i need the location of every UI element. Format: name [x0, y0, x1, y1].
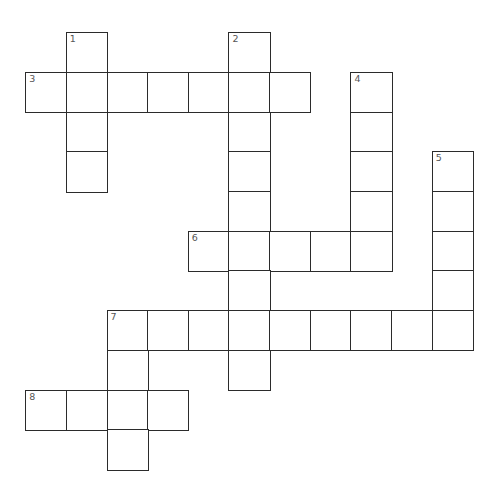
crossword-cell[interactable]	[188, 310, 230, 351]
crossword-grid: 12345678	[0, 0, 501, 487]
crossword-cell[interactable]	[310, 231, 352, 272]
clue-number: 8	[29, 392, 35, 402]
crossword-cell[interactable]	[66, 151, 108, 192]
crossword-cell[interactable]	[350, 310, 392, 351]
crossword-cell[interactable]	[350, 231, 392, 272]
crossword-cell[interactable]	[228, 231, 270, 272]
crossword-cell[interactable]	[147, 310, 189, 351]
crossword-cell[interactable]	[432, 231, 474, 272]
crossword-cell[interactable]	[107, 429, 149, 470]
crossword-cell[interactable]	[432, 191, 474, 232]
crossword-cell[interactable]: 6	[188, 231, 230, 272]
crossword-cell[interactable]: 3	[25, 72, 67, 113]
crossword-cell[interactable]	[269, 72, 311, 113]
crossword-cell[interactable]	[228, 310, 270, 351]
clue-number: 6	[192, 233, 198, 243]
crossword-cell[interactable]	[269, 231, 311, 272]
crossword-cell[interactable]	[107, 390, 149, 431]
crossword-cell[interactable]	[66, 390, 108, 431]
crossword-cell[interactable]	[66, 72, 108, 113]
crossword-cell[interactable]	[147, 72, 189, 113]
clue-number: 7	[111, 312, 117, 322]
crossword-cell[interactable]	[107, 72, 149, 113]
clue-number: 3	[29, 74, 35, 84]
crossword-cell[interactable]	[228, 191, 270, 232]
crossword-cell[interactable]	[350, 112, 392, 153]
crossword-cell[interactable]	[432, 270, 474, 311]
crossword-cell[interactable]	[350, 151, 392, 192]
crossword-cell[interactable]	[188, 72, 230, 113]
crossword-cell[interactable]	[228, 270, 270, 311]
crossword-cell[interactable]	[391, 310, 433, 351]
crossword-cell[interactable]	[350, 191, 392, 232]
clue-number: 5	[436, 153, 442, 163]
crossword-cell[interactable]: 7	[107, 310, 149, 351]
crossword-cell[interactable]	[269, 310, 311, 351]
crossword-cell[interactable]	[107, 350, 149, 391]
clue-number: 1	[70, 34, 76, 44]
crossword-cell[interactable]: 2	[228, 32, 270, 73]
crossword-cell[interactable]	[228, 112, 270, 153]
clue-number: 2	[232, 34, 238, 44]
crossword-cell[interactable]	[147, 390, 189, 431]
crossword-cell[interactable]: 5	[432, 151, 474, 192]
crossword-cell[interactable]: 8	[25, 390, 67, 431]
crossword-cell[interactable]	[310, 310, 352, 351]
crossword-cell[interactable]	[66, 112, 108, 153]
crossword-cell[interactable]	[228, 350, 270, 391]
crossword-cell[interactable]	[228, 151, 270, 192]
clue-number: 4	[354, 74, 360, 84]
crossword-cell[interactable]: 4	[350, 72, 392, 113]
crossword-cell[interactable]	[228, 72, 270, 113]
crossword-cell[interactable]: 1	[66, 32, 108, 73]
crossword-cell[interactable]	[432, 310, 474, 351]
